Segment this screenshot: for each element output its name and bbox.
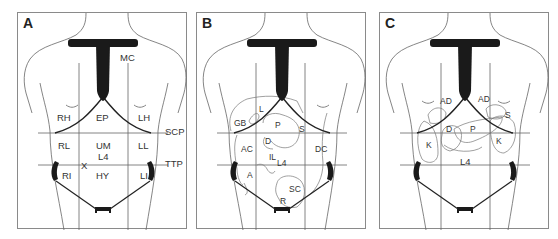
label-stomach: S [299,125,305,134]
label-ri: RI [62,171,72,181]
label-scp: SCP [165,127,185,137]
panel-letter-b: B [202,15,212,31]
label-x-mcburney: X [81,161,87,171]
label-ttp: TTP [165,159,183,169]
label-rh: RH [57,113,71,123]
label-duodenum: D [446,125,452,134]
label-ep: EP [96,113,109,123]
label-duodenum: D [265,137,271,146]
label-rectum: R [280,197,286,206]
panel-letter-c: C [385,15,395,31]
label-pancreas: P [275,121,281,130]
label-kidney-right: K [426,141,432,150]
label-kidney-left: K [496,137,502,146]
label-gallbladder: GB [234,119,246,128]
label-lh: LH [138,113,150,123]
label-mc: MC [120,53,135,63]
label-descending-colon: DC [315,145,327,154]
panel-a: A MC RH EP LH RL UM L4 LL X RI HY LI [17,12,187,229]
label-adrenal-left: AD [478,95,490,104]
label-liver: L [259,105,264,114]
label-li: LI [140,171,148,181]
label-ileum: IL [269,153,276,162]
label-rl: RL [58,141,70,151]
label-l4: L4 [277,159,286,168]
label-appendix: A [247,171,253,180]
label-sigmoid-colon: SC [289,185,301,194]
panel-letter-a: A [23,15,33,31]
label-um: UM [96,141,111,151]
label-l4: L4 [98,152,109,162]
panel-b: B L GB P S D AC IL L4 DC A SC R [196,12,366,229]
label-l4: L4 [460,157,471,167]
label-spleen: S [505,111,511,120]
label-hy: HY [96,171,109,181]
label-adrenal-right: AD [440,97,452,106]
panel-c: C AD AD S D P K K L4 [379,12,549,229]
label-ll: LL [138,141,149,151]
label-pancreas: P [470,125,476,134]
retroperitoneal-organs-diagram [380,13,550,230]
label-ascending-colon: AC [241,145,253,154]
